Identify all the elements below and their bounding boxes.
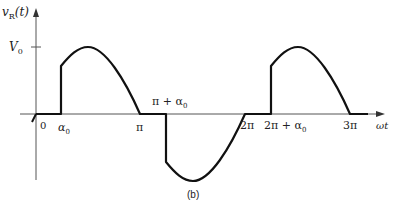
y-axis-arrow-icon [33, 8, 39, 17]
y-axis-label: vR(t) [2, 5, 29, 21]
tick-label-origin: 0 [40, 120, 46, 131]
tick-label-pi: π [136, 121, 143, 134]
x-axis-arrow-icon [376, 111, 385, 117]
tick-label-2pi-plus-alpha0: 2π + α0 [264, 119, 306, 134]
v0-label: V0 [9, 40, 23, 56]
tick-label-alpha0: α0 [58, 121, 70, 136]
y-axis-tail [32, 114, 36, 122]
figure-caption: (b) [187, 189, 199, 200]
tick-label-3pi: 3π [343, 119, 357, 132]
tick-label-2pi: 2π [240, 119, 254, 132]
tick-label-pi-plus-alpha0: π + α0 [152, 95, 187, 110]
x-axis-label: ωt [376, 120, 389, 131]
waveform-diagram: vR(t) V0 0 α0 π π + α0 2π 2π + α0 3π ωt … [0, 0, 395, 211]
